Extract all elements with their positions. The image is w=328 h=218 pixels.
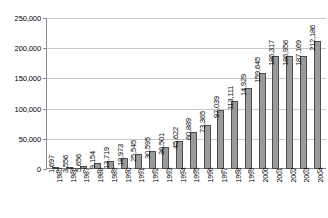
x-tick-slot: 2002	[283, 170, 297, 218]
x-tick-slot: 2003	[297, 170, 311, 218]
y-tick-mark	[43, 169, 47, 170]
plot-area: 1,6973,5565,6569,15413,71918,97325,54530…	[47, 18, 326, 169]
bar-slot: 14,929	[242, 18, 256, 169]
bar-slot: 5,656	[77, 18, 91, 169]
bar[interactable]	[314, 41, 321, 169]
x-tick-slot: 1989	[104, 170, 118, 218]
bar-slot: 45,622	[173, 18, 187, 169]
bar-value-label: 18,973	[116, 144, 125, 166]
bar[interactable]	[272, 56, 279, 169]
bar-chart: 250,000200,000150,000100,00050,0000 1,69…	[0, 0, 328, 218]
x-tick-slot: 2004	[310, 170, 324, 218]
x-tick-slot: 1985	[49, 170, 63, 218]
bar-value-label: 30,595	[143, 137, 152, 159]
x-tick-slot: 1997	[214, 170, 228, 218]
x-tick-slot: 1999	[242, 170, 256, 218]
y-tick-label: 50,000	[19, 134, 41, 143]
x-tick-slot: 1994	[173, 170, 187, 218]
bar-value-label: 186,956	[281, 40, 290, 66]
bar-value-label: 14,929	[239, 74, 248, 96]
y-tick-label: 250,000	[15, 14, 41, 23]
bar-value-label: 45,622	[171, 128, 180, 150]
y-axis: 250,000200,000150,000100,00050,0000	[0, 18, 45, 168]
bar[interactable]	[231, 101, 238, 169]
y-tick-mark	[43, 18, 47, 19]
bar-value-label: 159,645	[253, 57, 262, 83]
bar-slot: 212,186	[310, 18, 324, 169]
bar-slot: 1,697	[49, 18, 63, 169]
bar-value-label: 25,545	[129, 140, 138, 162]
y-tick-label: 150,000	[15, 74, 41, 83]
y-tick-mark	[43, 109, 47, 110]
bar[interactable]	[217, 110, 224, 169]
x-tick-slot: 1992	[145, 170, 159, 218]
bar-value-label: 113,111	[226, 86, 235, 110]
x-tick-slot: 2000	[255, 170, 269, 218]
bar[interactable]	[259, 73, 266, 169]
x-tick-slot: 2001	[269, 170, 283, 218]
y-tick-mark	[43, 48, 47, 49]
bar-value-label: 97,039	[212, 97, 221, 119]
x-tick-slot: 1998	[228, 170, 242, 218]
y-tick-label: 200,000	[15, 44, 41, 53]
bar-value-label: 73,365	[198, 111, 207, 133]
bar[interactable]	[245, 88, 252, 169]
bar-value-label: 36,501	[157, 133, 166, 155]
bar[interactable]	[300, 56, 307, 169]
y-tick-label: 0	[37, 165, 41, 174]
x-tick-slot: 1995	[187, 170, 201, 218]
bar-slot: 73,365	[200, 18, 214, 169]
bar[interactable]	[286, 56, 293, 169]
x-tick-slot: 1993	[159, 170, 173, 218]
bar-value-label: 186,317	[267, 41, 276, 67]
x-tick-slot: 1988	[90, 170, 104, 218]
bar-value-label: 212,186	[308, 25, 317, 51]
y-tick-label: 100,000	[15, 104, 41, 113]
bar-value-label: 187,169	[294, 40, 303, 66]
x-tick-label: 2004	[317, 168, 324, 183]
y-tick-mark	[43, 78, 47, 79]
bar-slot: 3,556	[63, 18, 77, 169]
bar-value-label: 13,719	[102, 147, 111, 169]
x-tick-slot: 1990	[118, 170, 132, 218]
x-tick-slot: 1986	[63, 170, 77, 218]
bar-value-label: 60,889	[184, 118, 193, 140]
bar-series: 1,6973,5565,6569,15413,71918,97325,54530…	[47, 18, 326, 169]
x-tick-slot: 1987	[77, 170, 91, 218]
x-tick-slot: 1996	[200, 170, 214, 218]
x-axis: 1985198619871988198919901991199219931994…	[47, 170, 326, 218]
x-tick-slot: 1991	[132, 170, 146, 218]
y-tick-mark	[43, 139, 47, 140]
bar-slot: 60,889	[187, 18, 201, 169]
